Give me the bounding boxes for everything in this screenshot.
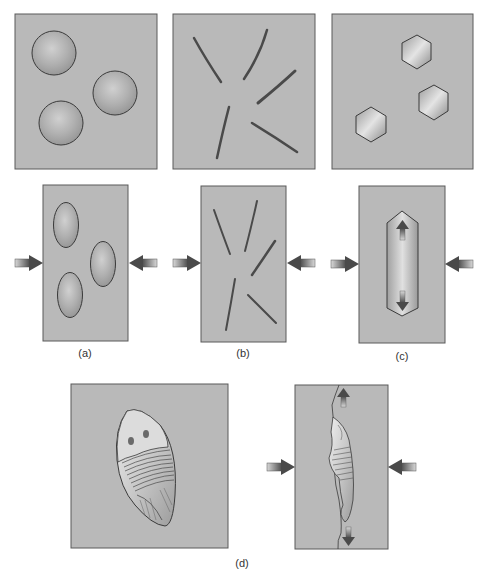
sphere-grain xyxy=(93,71,137,115)
panel-d-before xyxy=(71,384,228,548)
label-c: (c) xyxy=(396,350,409,362)
flattened-grain xyxy=(54,203,79,248)
flattened-grain xyxy=(58,273,83,318)
compression-arrow-right xyxy=(129,255,157,271)
compression-arrow-right xyxy=(287,255,315,271)
panel-a-before xyxy=(15,14,157,169)
deformation-diagram: (a) (b) xyxy=(0,0,487,573)
compression-arrow-left xyxy=(331,256,359,272)
panel-b-before xyxy=(173,14,315,169)
flattened-grain xyxy=(91,242,116,287)
panel-d-after xyxy=(295,385,388,549)
panel-a-after xyxy=(43,185,128,341)
label-b: (b) xyxy=(236,347,249,359)
compression-arrow-right xyxy=(388,459,416,475)
panel-b-after xyxy=(201,186,286,342)
sphere-grain xyxy=(32,31,76,75)
compression-arrow-left xyxy=(267,459,295,475)
compression-arrow-left xyxy=(15,255,43,271)
panel-c-before xyxy=(332,14,473,169)
compression-arrow-right xyxy=(445,256,473,272)
compression-arrow-left xyxy=(173,255,201,271)
panel-c-after xyxy=(359,186,445,343)
sphere-grain xyxy=(39,101,83,145)
label-a: (a) xyxy=(78,347,91,359)
label-d: (d) xyxy=(235,557,248,569)
